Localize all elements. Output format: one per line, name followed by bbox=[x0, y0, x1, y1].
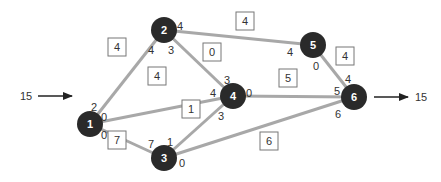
flow-value: 4 bbox=[242, 15, 248, 27]
endpoint-label: 4 bbox=[210, 87, 216, 99]
endpoint-label: 4 bbox=[287, 46, 293, 58]
node-label: 4 bbox=[230, 90, 237, 102]
sink-flow-label: 15 bbox=[415, 91, 427, 103]
endpoint-label: 0 bbox=[246, 87, 252, 99]
flow-box-2-4: 0 bbox=[203, 43, 221, 61]
node-label: 6 bbox=[351, 91, 357, 103]
flow-box-3-4: 1 bbox=[182, 100, 200, 118]
source-inflow: 15 bbox=[20, 90, 72, 102]
flow-network-diagram: 447041654 200434340371040456 123456 1515 bbox=[0, 0, 441, 182]
node-label: 1 bbox=[87, 118, 93, 130]
endpoint-label: 0 bbox=[101, 129, 107, 141]
flow-box-1-3: 7 bbox=[108, 131, 126, 149]
flow-box-1-4: 4 bbox=[148, 67, 166, 85]
flow-value: 4 bbox=[342, 50, 348, 62]
flow-value: 7 bbox=[114, 134, 120, 146]
flow-value: 4 bbox=[154, 70, 160, 82]
endpoint-label: 4 bbox=[148, 44, 154, 56]
endpoint-label: 6 bbox=[335, 108, 341, 120]
node-4: 4 bbox=[220, 83, 246, 109]
endpoint-label: 0 bbox=[179, 157, 185, 169]
flow-value: 4 bbox=[114, 41, 120, 53]
sink-outflow: 15 bbox=[374, 91, 427, 103]
node-label: 3 bbox=[161, 152, 167, 164]
edge-2-4 bbox=[164, 30, 233, 96]
node-2: 2 bbox=[151, 17, 177, 43]
flow-value: 5 bbox=[285, 72, 291, 84]
source-flow-label: 15 bbox=[20, 90, 32, 102]
flow-box-4-6: 5 bbox=[279, 69, 297, 87]
diagram-canvas: 447041654 200434340371040456 123456 1515 bbox=[0, 0, 441, 182]
node-3: 3 bbox=[151, 145, 177, 171]
node-label: 2 bbox=[161, 24, 167, 36]
flow-box-2-5: 4 bbox=[236, 12, 254, 30]
edge-1-4 bbox=[90, 96, 233, 124]
flow-value: 6 bbox=[266, 135, 272, 147]
endpoint-label: 0 bbox=[313, 60, 319, 72]
node-6: 6 bbox=[341, 84, 367, 110]
endpoint-label: 4 bbox=[177, 20, 183, 32]
endpoint-label: 3 bbox=[168, 44, 174, 56]
flow-box-3-6: 6 bbox=[260, 132, 278, 150]
edge-2-5 bbox=[164, 30, 313, 45]
node-1: 1 bbox=[77, 111, 103, 137]
endpoint-label: 5 bbox=[334, 85, 340, 97]
endpoint-label: 4 bbox=[345, 73, 351, 85]
flow-value: 0 bbox=[209, 46, 215, 58]
flow-value: 1 bbox=[188, 103, 194, 115]
flow-box-1-2: 4 bbox=[108, 38, 126, 56]
node-label: 5 bbox=[310, 39, 316, 51]
endpoint-label: 7 bbox=[148, 138, 154, 150]
endpoint-label: 3 bbox=[218, 110, 224, 122]
flow-box-5-6: 4 bbox=[336, 47, 354, 65]
node-5: 5 bbox=[300, 32, 326, 58]
